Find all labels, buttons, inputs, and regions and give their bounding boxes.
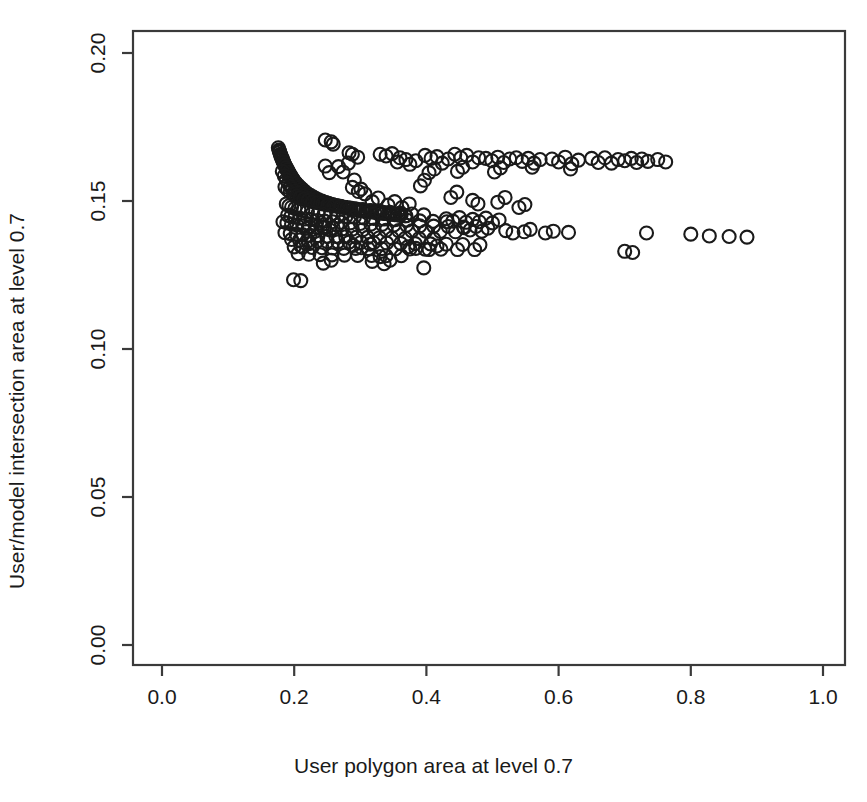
plot-border [133,31,845,665]
y-axis-tick-label: 0.05 [85,457,111,537]
y-axis-tick-label: 0.15 [85,161,111,241]
y-axis-title: User/model intersection area at level 0.… [0,0,34,802]
x-axis-tick-label: 0.2 [254,685,334,709]
y-axis-tick-label: 0.10 [85,309,111,389]
x-axis-title: User polygon area at level 0.7 [0,754,867,778]
x-axis-tick-label: 0.6 [519,685,599,709]
x-axis-tick-label: 0.4 [386,685,466,709]
y-axis-tick-label: 0.00 [85,605,111,685]
plot-canvas [0,0,867,802]
scatter-plot-figure: 0.000.050.100.150.20 0.00.20.40.60.81.0 … [0,0,867,802]
y-axis-tick-label: 0.20 [85,13,111,93]
x-axis-tick-label: 0.0 [122,685,202,709]
plot-frame [133,31,845,665]
x-axis-tick-label: 0.8 [651,685,731,709]
x-axis-tick-label: 1.0 [783,685,863,709]
